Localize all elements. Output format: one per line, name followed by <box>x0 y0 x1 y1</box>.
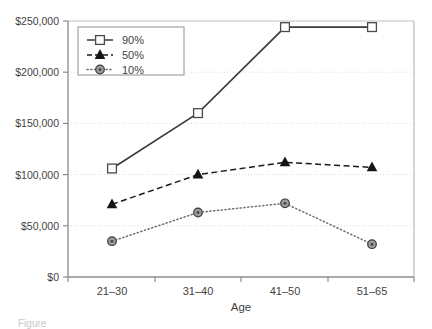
legend-label-10-percent: 10% <box>122 64 144 76</box>
chart-background <box>0 0 432 329</box>
legend-marker-open-square-icon <box>96 36 105 45</box>
line-chart: $250,000 $200,000 $150,000 $100,000 $50,… <box>0 0 432 329</box>
figure-caption: Figure <box>18 318 47 329</box>
y-tick-label-150000: $150,000 <box>15 117 59 129</box>
figure-container: $250,000 $200,000 $150,000 $100,000 $50,… <box>0 0 432 329</box>
x-tick-label-21-30: 21–30 <box>97 285 128 297</box>
y-tick-label-100000: $100,000 <box>15 169 59 181</box>
x-tick-label-51-65: 51–65 <box>357 285 388 297</box>
y-tick-label-250000: $250,000 <box>15 15 59 27</box>
legend-label-90-percent: 90% <box>122 34 144 46</box>
y-tick-label-0: $0 <box>47 271 59 283</box>
y-tick-label-50000: $50,000 <box>21 220 59 232</box>
legend-label-50-percent: 50% <box>122 49 144 61</box>
x-tick-label-41-50: 41–50 <box>270 285 301 297</box>
x-axis-title: Age <box>231 301 251 313</box>
y-tick-label-200000: $200,000 <box>15 66 59 78</box>
legend-marker-circle-center <box>99 68 102 71</box>
legend: 90% 50% 10% <box>78 27 184 76</box>
x-tick-label-31-40: 31–40 <box>183 285 214 297</box>
